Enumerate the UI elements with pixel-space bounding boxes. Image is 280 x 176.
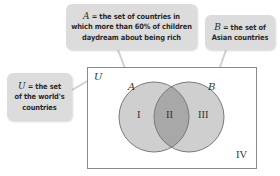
set-a-callout: A = the set of countries in which more t…: [66, 4, 197, 50]
region-ii-label: II: [166, 110, 173, 120]
universe-callout-line2: of the world's: [14, 92, 64, 103]
region-iii-label: III: [198, 110, 209, 120]
universe-callout-line3: countries: [22, 103, 56, 114]
set-a-callout-line2: which more than 60% of children: [71, 22, 192, 33]
set-b-label: B: [208, 82, 215, 92]
universe-label: U: [94, 72, 102, 82]
set-a-callout-line1: = the set of countries in: [92, 12, 180, 21]
universe-callout-symbol: U: [18, 81, 26, 91]
set-b-callout-symbol: B: [214, 22, 221, 32]
region-i-label: I: [137, 110, 141, 120]
set-a-callout-symbol: A: [83, 11, 89, 21]
set-a-callout-line3: daydream about being rich: [82, 33, 181, 44]
universe-callout-line1: = the set: [28, 82, 61, 91]
set-b-callout: B = the set of Asian countries: [205, 15, 275, 50]
region-iv-label: IV: [236, 150, 247, 160]
set-a-label: A: [128, 82, 135, 92]
set-b-callout-line2: Asian countries: [212, 33, 269, 44]
set-b-callout-line1: = the set of: [223, 23, 266, 32]
universe-callout: U = the set of the world's countries: [7, 73, 72, 121]
